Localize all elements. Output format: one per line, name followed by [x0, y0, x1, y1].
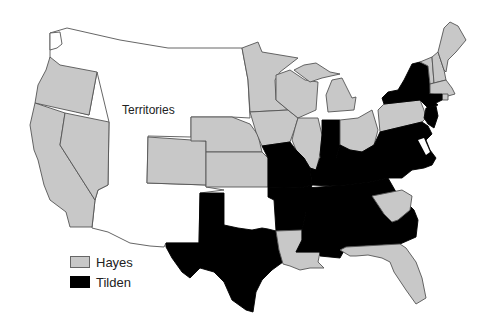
- state-maine: [438, 22, 466, 72]
- tilden-swatch: [70, 276, 90, 288]
- legend-item-tilden: Tilden: [70, 272, 133, 292]
- legend-item-hayes: Hayes: [70, 252, 133, 272]
- state-colorado: [147, 137, 206, 185]
- legend-label-hayes: Hayes: [96, 255, 133, 270]
- territories-label: Territories: [122, 103, 175, 117]
- hayes-swatch: [70, 256, 90, 268]
- map-legend: Hayes Tilden: [70, 252, 133, 292]
- legend-label-tilden: Tilden: [96, 275, 131, 290]
- state-florida: [340, 244, 426, 304]
- state-rhode-island: [442, 94, 448, 100]
- state-michigan-lower: [326, 78, 356, 112]
- state-kansas: [206, 152, 268, 187]
